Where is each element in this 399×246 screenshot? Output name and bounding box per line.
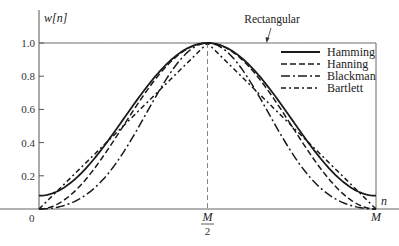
rectangular-annotation: Rectangular: [244, 13, 300, 26]
legend: HammingHanningBlackmanBartlett: [281, 45, 376, 95]
x-axis-label: n: [381, 194, 387, 208]
y-tick-label: 0.2: [21, 170, 35, 182]
y-ticks: 0.20.40.60.81.0: [21, 37, 44, 182]
y-tick-label: 0.4: [21, 137, 35, 149]
y-tick-label: 0.8: [21, 70, 35, 82]
y-tick-label: 1.0: [21, 37, 35, 49]
legend-label-bartlett: Bartlett: [327, 81, 364, 95]
x-tick-0: 0: [29, 212, 35, 224]
x-tick-mid-numerator: M: [202, 210, 214, 224]
window-functions-chart: 0.20.40.60.81.0 w[n] n 0 M 2 M Rectangul…: [0, 0, 399, 246]
y-tick-label: 0.6: [21, 103, 35, 115]
y-axis-label: w[n]: [44, 11, 68, 25]
x-tick-mid-denominator: 2: [205, 225, 211, 237]
x-tick-end: M: [370, 210, 382, 224]
rectangular-arrowhead: [266, 37, 270, 43]
